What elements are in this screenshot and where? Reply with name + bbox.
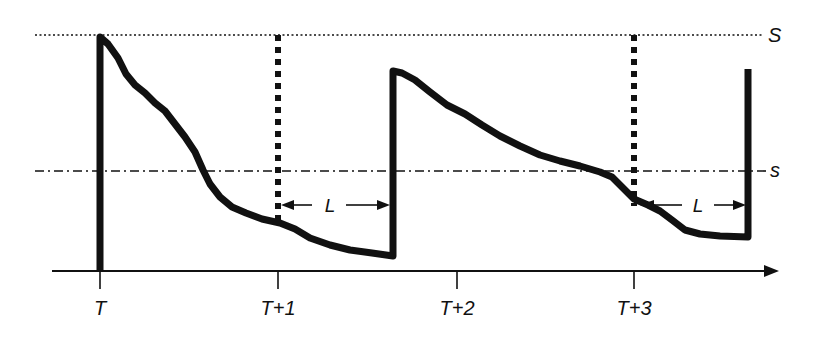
inventory-level-curve [100,37,748,271]
lead-time-arrow-1: L [281,195,390,216]
lead-time-label-2: L [693,195,704,216]
inventory-diagram: S s T T+1 T+2 T+3 L [0,0,820,343]
arrowhead-right-icon [377,200,390,210]
tick-label-t: T [94,297,108,319]
arrowhead-left-icon [281,200,294,210]
tick-label-t3: T+3 [616,297,651,319]
tick-label-t2: T+2 [439,297,474,319]
arrowhead-right-icon [733,200,746,210]
reorder-point-label: s [770,159,780,181]
order-up-to-level-label: S [768,24,782,46]
tick-label-t1: T+1 [260,297,295,319]
time-axis-arrowhead [764,265,779,277]
lead-time-label-1: L [325,195,336,216]
